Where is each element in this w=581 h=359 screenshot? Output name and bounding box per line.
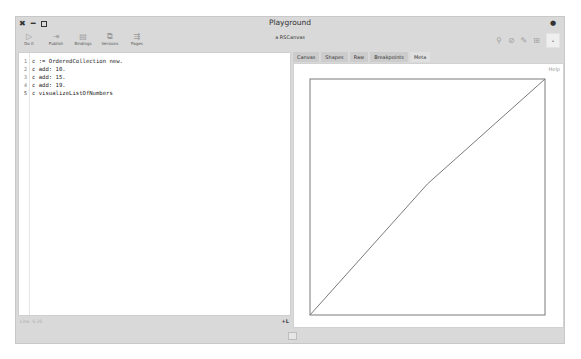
- tool-label: Do it: [24, 41, 33, 47]
- grid-icon[interactable]: ⊞: [533, 36, 540, 45]
- tab-canvas[interactable]: Canvas: [293, 52, 319, 62]
- inspector-tabs: Canvas Shapes Raw Breakpoints Meta: [293, 52, 430, 62]
- tab-breakpoints[interactable]: Breakpoints: [370, 52, 408, 62]
- tab-shapes[interactable]: Shapes: [321, 52, 347, 62]
- tab-meta[interactable]: Meta: [410, 52, 430, 62]
- playground-window: ✖ ━ Playground ● ▷ Do it ⇥ Publish ▤ Bin…: [15, 16, 565, 344]
- code-line: 1 c := OrderedCollection new.: [19, 57, 290, 65]
- code-line: 5 c visualizeListOfNumbers: [19, 89, 290, 97]
- tool-label: Versions: [102, 41, 119, 47]
- code-line: 3 c add: 15.: [19, 73, 290, 81]
- line-numbers-toggle[interactable]: +L: [282, 318, 289, 324]
- inspector-pane: Canvas Shapes Raw Breakpoints Meta Help: [293, 52, 564, 328]
- code-editor[interactable]: 1 c := OrderedCollection new. 2 c add: 1…: [18, 52, 291, 316]
- filter-icon[interactable]: ⚲: [496, 36, 502, 45]
- code-text[interactable]: c add: 19.: [29, 81, 66, 89]
- code-text[interactable]: c := OrderedCollection new.: [29, 57, 123, 65]
- inspector-tools: ⚲ ⊘ ✎ ⊞ •: [496, 33, 560, 48]
- line-chart: [294, 64, 565, 329]
- code-line: 4 c add: 19.: [19, 81, 290, 89]
- line-number: 1: [19, 57, 29, 65]
- toolbar: ▷ Do it ⇥ Publish ▤ Bindings ⧉ Versions …: [16, 31, 564, 51]
- window-title: Playground: [16, 18, 564, 27]
- line-number: 4: [19, 81, 29, 89]
- code-text[interactable]: c add: 15.: [29, 73, 66, 81]
- bottom-strip: [16, 329, 564, 343]
- line-number: 5: [19, 89, 29, 97]
- data-line: [310, 79, 545, 315]
- code-text[interactable]: c add: 10.: [29, 65, 66, 73]
- code-line: 2 c add: 10.: [19, 65, 290, 73]
- code-lines: 1 c := OrderedCollection new. 2 c add: 1…: [19, 57, 290, 97]
- editor-status-bar: Line: 5:25 +L: [18, 318, 291, 328]
- edit-icon[interactable]: ✎: [521, 36, 528, 45]
- line-number: 2: [19, 65, 29, 73]
- rs-canvas[interactable]: Help: [293, 63, 564, 328]
- inspector-title: a RSCanvas: [16, 34, 564, 40]
- code-text[interactable]: c visualizeListOfNumbers: [29, 89, 113, 97]
- title-bar: ✖ ━ Playground ●: [16, 17, 564, 31]
- chart-frame: [310, 79, 545, 315]
- dot-menu-button[interactable]: •: [546, 33, 560, 48]
- line-number: 3: [19, 73, 29, 81]
- tool-label: Pages: [131, 41, 143, 47]
- cursor-position: Line: 5:25: [20, 319, 42, 324]
- tool-label: Bindings: [74, 41, 91, 47]
- stop-icon[interactable]: ⊘: [508, 36, 515, 45]
- expand-button[interactable]: [288, 332, 297, 340]
- menu-dot-icon[interactable]: ●: [550, 19, 556, 27]
- tool-label: Publish: [49, 41, 63, 47]
- tab-raw[interactable]: Raw: [350, 52, 369, 62]
